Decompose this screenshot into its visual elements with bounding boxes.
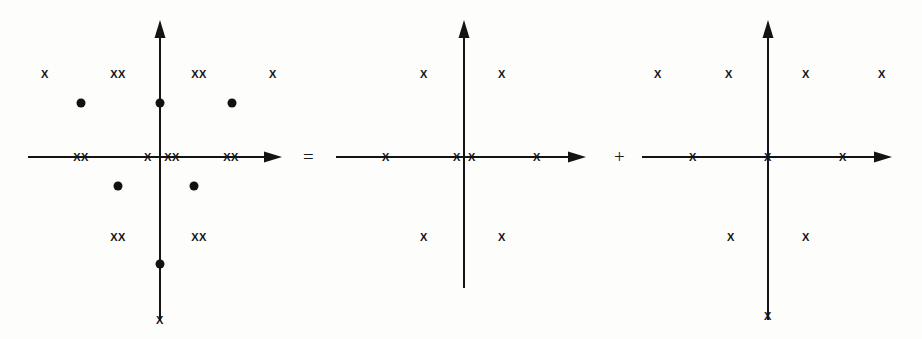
x-marker: X: [144, 152, 152, 163]
figure-canvas: XXXXXXXXXXXXXXXXXXXXXXXXXXXXXXXXXXXX =+: [0, 0, 922, 339]
x-marker: XX: [191, 69, 207, 80]
x-marker: X: [654, 69, 662, 80]
dot-marker: [77, 99, 86, 108]
x-marker: XX: [110, 69, 126, 80]
x-marker: X: [764, 311, 772, 322]
x-marker: X: [839, 152, 847, 163]
x-marker: X: [498, 232, 506, 243]
x-marker: X: [725, 69, 733, 80]
axes-layer: [0, 0, 922, 339]
dot-marker: [156, 260, 165, 269]
y-axis: [763, 20, 774, 320]
x-marker: X: [533, 152, 541, 163]
x-marker: X: [727, 232, 735, 243]
x-marker: XX: [223, 152, 239, 163]
x-marker: X: [156, 315, 164, 326]
dot-marker: [156, 99, 165, 108]
x-marker: XX: [164, 152, 180, 163]
x-marker: X: [802, 232, 810, 243]
dot-marker: [190, 182, 199, 191]
x-marker: XX: [191, 232, 207, 243]
x-marker: X: [468, 152, 476, 163]
x-marker: XX: [110, 232, 126, 243]
x-marker: X: [764, 152, 772, 163]
second-component-diagram: [642, 20, 892, 320]
x-marker: X: [453, 152, 461, 163]
x-marker: X: [802, 69, 810, 80]
y-axis: [155, 20, 166, 320]
x-marker: X: [689, 152, 697, 163]
dot-marker: [114, 182, 123, 191]
x-marker: X: [269, 69, 277, 80]
x-marker: X: [41, 69, 49, 80]
x-marker: X: [878, 69, 886, 80]
equals-operator: =: [303, 147, 314, 166]
plus-operator: +: [614, 147, 625, 166]
x-axis: [28, 152, 282, 163]
x-marker: X: [420, 232, 428, 243]
x-marker: X: [498, 69, 506, 80]
combined-diagram: [28, 20, 282, 320]
x-marker: X: [382, 152, 390, 163]
dot-marker: [228, 99, 237, 108]
x-marker: X: [420, 69, 428, 80]
x-marker: XX: [73, 152, 89, 163]
